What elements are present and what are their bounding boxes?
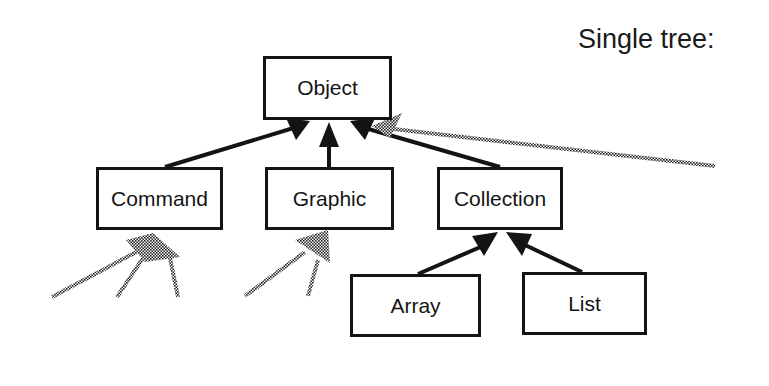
node-list: List — [522, 272, 647, 335]
edge-external-object — [372, 113, 715, 166]
edge-command-subclasses — [52, 233, 180, 297]
node-object: Object — [263, 56, 392, 120]
edge-graphic-object — [319, 122, 339, 167]
node-graphic: Graphic — [265, 167, 394, 230]
node-collection-label: Collection — [454, 187, 546, 211]
node-list-label: List — [568, 292, 601, 316]
edge-collection-object — [350, 118, 500, 167]
node-array-label: Array — [390, 294, 440, 318]
edge-list-collection — [506, 232, 582, 272]
node-command-label: Command — [111, 187, 208, 211]
node-array: Array — [350, 274, 481, 337]
node-command: Command — [96, 167, 223, 230]
edge-graphic-subclasses — [245, 230, 330, 296]
edge-array-collection — [418, 232, 498, 274]
node-object-label: Object — [297, 76, 358, 100]
node-collection: Collection — [437, 167, 563, 230]
node-graphic-label: Graphic — [293, 187, 367, 211]
edge-command-object — [165, 118, 310, 167]
